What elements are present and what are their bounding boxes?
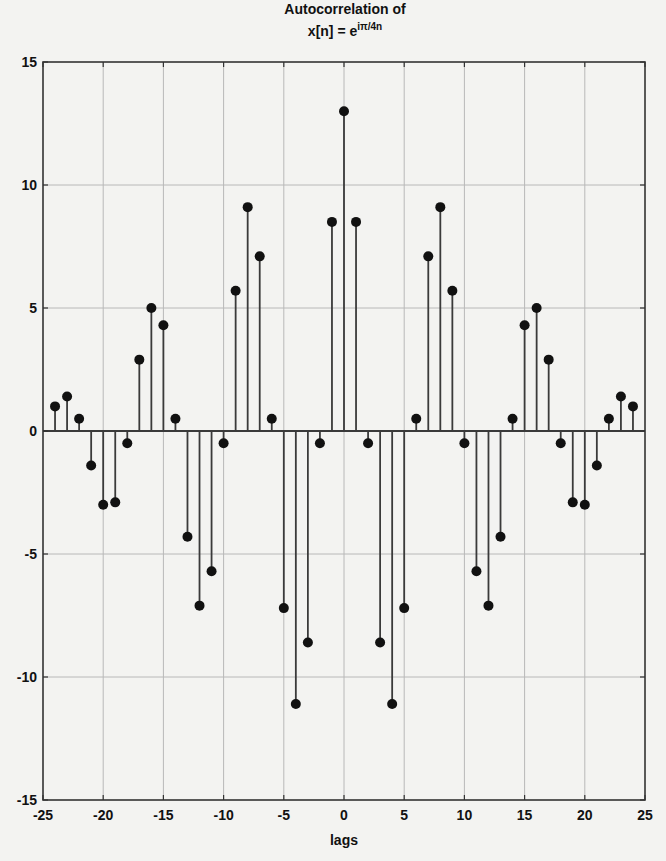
stem-marker xyxy=(134,355,144,365)
stem-marker xyxy=(544,355,554,365)
stem-marker xyxy=(158,320,168,330)
stem-marker xyxy=(363,438,373,448)
stem-marker xyxy=(387,699,397,709)
stem-marker xyxy=(110,497,120,507)
stem-marker xyxy=(50,401,60,411)
stem-marker xyxy=(207,566,217,576)
stem-marker xyxy=(170,414,180,424)
stem-marker xyxy=(195,601,205,611)
x-tick-label: -25 xyxy=(33,807,53,823)
x-tick-label: -10 xyxy=(213,807,233,823)
stem-marker xyxy=(74,414,84,424)
stem-marker xyxy=(628,401,638,411)
stem-marker xyxy=(351,217,361,227)
y-tick-label: 5 xyxy=(29,300,37,316)
y-tick-label: 0 xyxy=(29,423,37,439)
stem-marker xyxy=(592,460,602,470)
stem-marker xyxy=(62,392,72,402)
stem-marker xyxy=(315,438,325,448)
stem-marker xyxy=(411,414,421,424)
stem-marker xyxy=(375,638,385,648)
stem-marker xyxy=(435,202,445,212)
stem-marker xyxy=(303,638,313,648)
x-axis-label: lags xyxy=(330,832,358,848)
stem-marker xyxy=(496,532,506,542)
stem-marker xyxy=(532,303,542,313)
stem-marker xyxy=(616,392,626,402)
stem-marker xyxy=(508,414,518,424)
x-tick-label: -15 xyxy=(153,807,173,823)
stem-marker xyxy=(279,603,289,613)
stem-marker xyxy=(243,202,253,212)
stem-marker xyxy=(231,286,241,296)
stem-marker xyxy=(520,320,530,330)
stem-marker xyxy=(182,532,192,542)
stem-marker xyxy=(98,500,108,510)
y-tick-label: -10 xyxy=(17,669,37,685)
stem-marker xyxy=(399,603,409,613)
stem-marker xyxy=(447,286,457,296)
stem-marker xyxy=(122,438,132,448)
y-tick-label: -15 xyxy=(17,792,37,808)
stem-marker xyxy=(556,438,566,448)
y-tick-labels: -15-10-5051015 xyxy=(17,54,37,808)
stem-marker xyxy=(483,601,493,611)
x-tick-labels: -25-20-15-10-50510152025 xyxy=(33,807,653,823)
x-tick-label: 0 xyxy=(340,807,348,823)
x-tick-label: 15 xyxy=(517,807,533,823)
stem-marker xyxy=(255,251,265,261)
stem-marker xyxy=(267,414,277,424)
stem-marker xyxy=(86,460,96,470)
x-tick-label: -20 xyxy=(93,807,113,823)
x-tick-label: 25 xyxy=(637,807,653,823)
y-tick-label: -5 xyxy=(25,546,38,562)
x-tick-label: -5 xyxy=(278,807,291,823)
stem-marker xyxy=(146,303,156,313)
x-tick-label: 20 xyxy=(577,807,593,823)
stem-marker xyxy=(339,106,349,116)
stem-marker xyxy=(568,497,578,507)
stem-chart: -25-20-15-10-50510152025 -15-10-5051015 … xyxy=(0,0,666,861)
x-tick-label: 5 xyxy=(400,807,408,823)
stem-marker xyxy=(471,566,481,576)
stem-marker xyxy=(423,251,433,261)
stem-marker xyxy=(219,438,229,448)
stem-marker xyxy=(604,414,614,424)
x-tick-label: 10 xyxy=(457,807,473,823)
y-tick-label: 10 xyxy=(21,177,37,193)
y-tick-label: 15 xyxy=(21,54,37,70)
stem-marker xyxy=(459,438,469,448)
stem-marker xyxy=(291,699,301,709)
stem-marker xyxy=(327,217,337,227)
stem-marker xyxy=(580,500,590,510)
